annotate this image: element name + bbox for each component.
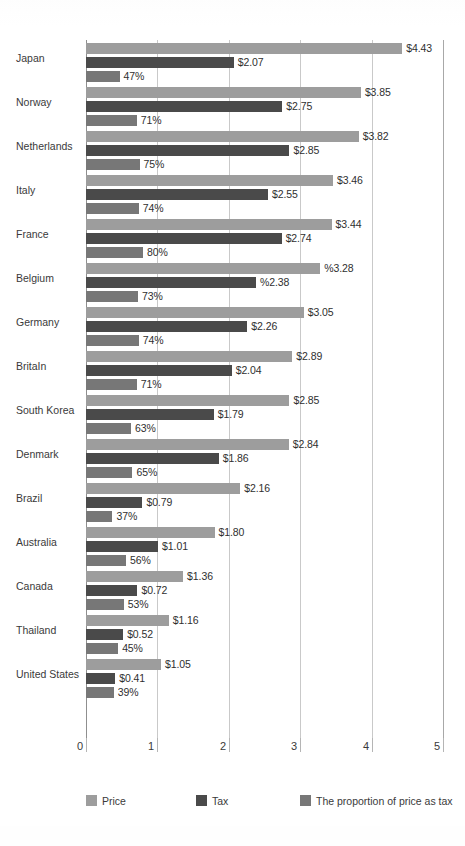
bar-prop[interactable] bbox=[86, 335, 139, 346]
bar-tax[interactable] bbox=[86, 629, 123, 640]
bar-row: $2.85 bbox=[86, 395, 319, 406]
bar-prop[interactable] bbox=[86, 643, 118, 654]
bar-prop[interactable] bbox=[86, 555, 126, 566]
bar-value-label: $0.79 bbox=[146, 497, 172, 508]
bar-row: $3.46 bbox=[86, 175, 363, 186]
bar-value-label: $2.85 bbox=[293, 145, 319, 156]
bar-value-label: 73% bbox=[142, 291, 163, 302]
bar-row: $3.44 bbox=[86, 219, 361, 230]
bar-prop[interactable] bbox=[86, 159, 140, 170]
bar-row: 71% bbox=[86, 379, 161, 390]
bar-value-label: %2.38 bbox=[260, 277, 289, 288]
bar-tax[interactable] bbox=[86, 101, 282, 112]
bar-price[interactable] bbox=[86, 615, 169, 626]
bar-price[interactable] bbox=[86, 87, 361, 98]
legend-swatch-proportion-icon bbox=[300, 795, 311, 806]
bar-group: $2.85$1.7963% bbox=[86, 394, 443, 438]
bar-price[interactable] bbox=[86, 131, 359, 142]
axis-tick-mark bbox=[229, 738, 230, 752]
bar-row: $2.55 bbox=[86, 189, 298, 200]
bar-row: $2.85 bbox=[86, 145, 319, 156]
category-label: Belgium bbox=[16, 272, 86, 284]
chart-legend: Price Tax The proportion of price as tax bbox=[0, 795, 465, 811]
bar-tax[interactable] bbox=[86, 189, 268, 200]
bar-row: 80% bbox=[86, 247, 168, 258]
bar-group: $1.16$0.5245% bbox=[86, 614, 443, 658]
bar-tax[interactable] bbox=[86, 453, 219, 464]
bar-group: $2.16$0.7937% bbox=[86, 482, 443, 526]
bar-value-label: 71% bbox=[141, 115, 162, 126]
bar-tax[interactable] bbox=[86, 409, 214, 420]
bar-row: $1.16 bbox=[86, 615, 199, 626]
bar-tax[interactable] bbox=[86, 365, 232, 376]
bar-value-label: 74% bbox=[143, 203, 164, 214]
bar-prop[interactable] bbox=[86, 247, 143, 258]
bar-prop[interactable] bbox=[86, 423, 131, 434]
bar-price[interactable] bbox=[86, 43, 402, 54]
bar-value-label: 75% bbox=[144, 159, 165, 170]
axis-tick-mark bbox=[300, 738, 301, 752]
bar-group: $3.82$2.8575% bbox=[86, 130, 443, 174]
bar-value-label: $3.46 bbox=[337, 175, 363, 186]
bar-price[interactable] bbox=[86, 395, 289, 406]
bar-row: $1.79 bbox=[86, 409, 244, 420]
bar-row: $0.41 bbox=[86, 673, 145, 684]
bar-prop[interactable] bbox=[86, 511, 112, 522]
bar-value-label: 39% bbox=[118, 687, 139, 698]
bar-price[interactable] bbox=[86, 307, 304, 318]
bar-group: $1.80$1.0156% bbox=[86, 526, 443, 570]
bar-price[interactable] bbox=[86, 527, 215, 538]
bar-prop[interactable] bbox=[86, 203, 139, 214]
bar-price[interactable] bbox=[86, 571, 183, 582]
axis-tick-label: 3 bbox=[267, 740, 297, 753]
bar-prop[interactable] bbox=[86, 291, 138, 302]
bar-tax[interactable] bbox=[86, 673, 115, 684]
bar-prop[interactable] bbox=[86, 71, 120, 82]
bar-price[interactable] bbox=[86, 263, 320, 274]
bar-price[interactable] bbox=[86, 439, 289, 450]
bar-price[interactable] bbox=[86, 219, 332, 230]
bar-tax[interactable] bbox=[86, 277, 256, 288]
bar-row: $0.79 bbox=[86, 497, 172, 508]
bar-value-label: $2.07 bbox=[238, 57, 264, 68]
bar-tax[interactable] bbox=[86, 497, 142, 508]
bar-value-label: $1.79 bbox=[218, 409, 244, 420]
bar-row: 74% bbox=[86, 335, 164, 346]
gridline-5 bbox=[443, 40, 444, 738]
bar-tax[interactable] bbox=[86, 233, 282, 244]
bar-prop[interactable] bbox=[86, 379, 137, 390]
bar-row: $1.05 bbox=[86, 659, 191, 670]
bar-prop[interactable] bbox=[86, 467, 132, 478]
bar-row: $1.01 bbox=[86, 541, 188, 552]
bar-price[interactable] bbox=[86, 659, 161, 670]
bar-value-label: $2.85 bbox=[293, 395, 319, 406]
bar-row: $2.26 bbox=[86, 321, 277, 332]
bar-value-label: %3.28 bbox=[324, 263, 353, 274]
bar-row: $3.05 bbox=[86, 307, 334, 318]
bar-price[interactable] bbox=[86, 351, 292, 362]
bar-value-label: $2.74 bbox=[286, 233, 312, 244]
bar-tax[interactable] bbox=[86, 541, 158, 552]
bar-prop[interactable] bbox=[86, 115, 137, 126]
category-label: Japan bbox=[16, 52, 86, 64]
bar-value-label: $2.04 bbox=[236, 365, 262, 376]
bar-row: 63% bbox=[86, 423, 156, 434]
category-label: Norway bbox=[16, 96, 86, 108]
bar-price[interactable] bbox=[86, 175, 333, 186]
bar-value-label: 53% bbox=[128, 599, 149, 610]
bar-tax[interactable] bbox=[86, 321, 247, 332]
bar-tax[interactable] bbox=[86, 145, 289, 156]
legend-label-tax: Tax bbox=[212, 795, 228, 807]
bar-value-label: 47% bbox=[124, 71, 145, 82]
bar-prop[interactable] bbox=[86, 599, 124, 610]
bar-tax[interactable] bbox=[86, 585, 137, 596]
bar-value-label: 63% bbox=[135, 423, 156, 434]
legend-swatch-tax-icon bbox=[196, 795, 207, 806]
bar-prop[interactable] bbox=[86, 687, 114, 698]
bar-price[interactable] bbox=[86, 483, 240, 494]
bar-value-label: $2.55 bbox=[272, 189, 298, 200]
bar-tax[interactable] bbox=[86, 57, 234, 68]
bar-group: $3.05$2.2674% bbox=[86, 306, 443, 350]
category-label: France bbox=[16, 228, 86, 240]
bar-row: $1.86 bbox=[86, 453, 249, 464]
